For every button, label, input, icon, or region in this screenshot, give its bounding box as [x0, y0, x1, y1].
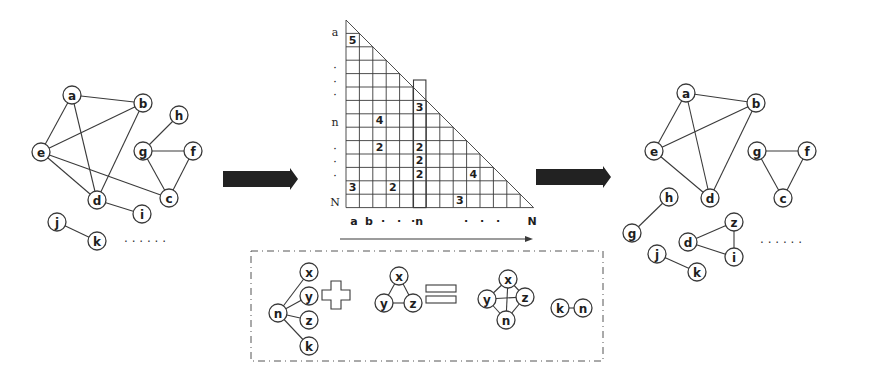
triangle-graph: xyz — [375, 267, 422, 312]
node-label: k — [93, 235, 102, 249]
node-b: b — [134, 94, 152, 112]
node-x: x — [499, 270, 517, 288]
node-z: z — [404, 294, 422, 312]
ellipsis: · · · · · · — [760, 236, 802, 250]
cell-value: 5 — [349, 34, 357, 47]
node-h: h — [660, 188, 678, 206]
edge — [654, 103, 756, 151]
node-label: h — [175, 109, 184, 123]
row-label: · — [333, 76, 337, 89]
row-label: · — [333, 170, 337, 183]
column-label: ·n — [411, 215, 423, 228]
row-label: · — [333, 143, 337, 156]
left-input-graph: abehgfdcijk· · · · · · — [32, 86, 202, 250]
node-label: k — [693, 266, 702, 280]
node-k: k — [88, 232, 106, 250]
node-label: n — [502, 314, 511, 328]
node-label: f — [804, 145, 810, 159]
node-label: c — [779, 192, 786, 206]
node-label: d — [706, 192, 715, 206]
node-d: d — [88, 191, 106, 209]
node-g: g — [623, 224, 641, 242]
node-label: x — [395, 270, 403, 284]
right-output-graph: abedgfchgzdijk· · · · · · — [623, 84, 816, 281]
node-label: e — [650, 145, 658, 159]
node-label: x — [504, 273, 512, 287]
node-label: n — [274, 307, 283, 321]
plus-icon — [322, 281, 350, 309]
node-d: d — [701, 189, 719, 207]
clique-graph: xyzn — [478, 270, 534, 329]
arrow-shape — [536, 166, 611, 188]
node-a: a — [63, 86, 81, 104]
node-label: y — [380, 297, 388, 311]
node-label: j — [654, 248, 659, 262]
cell-value: 2 — [376, 141, 384, 154]
node-label: x — [305, 266, 313, 280]
star-graph: nxyzk — [269, 263, 318, 355]
pair-graph: kn — [551, 299, 592, 317]
edge — [72, 95, 143, 103]
node-label: d — [93, 194, 102, 208]
edge — [686, 93, 756, 103]
cell-value: 2 — [389, 181, 397, 194]
column-label: · — [381, 215, 385, 228]
graph-compression-diagram: abehgfdcijk· · · · · · 53422224323a···n·… — [0, 0, 875, 389]
column-label: N — [527, 215, 536, 228]
row-label: N — [330, 196, 340, 209]
node-c: c — [774, 189, 792, 207]
node-x: x — [300, 263, 318, 281]
row-label: · — [333, 62, 337, 75]
node-j: j — [648, 245, 666, 263]
cell-value: 4 — [376, 114, 384, 127]
equals-icon-bottom — [426, 296, 456, 303]
ellipsis: · · · · · · — [124, 235, 166, 249]
node-h: h — [170, 106, 188, 124]
node-g: g — [134, 142, 152, 160]
node-label: k — [556, 302, 565, 316]
cell-value: 2 — [416, 141, 424, 154]
node-label: i — [732, 251, 736, 265]
arrow-shape — [223, 168, 298, 190]
node-label: j — [54, 216, 59, 230]
node-k: k — [300, 337, 318, 355]
merge-rule-legend-box: nxyzkxyzxyznkn — [251, 251, 603, 361]
node-label: g — [753, 145, 762, 159]
node-d: d — [679, 233, 697, 251]
node-j: j — [48, 213, 66, 231]
edge — [686, 93, 710, 198]
node-z: z — [300, 311, 318, 329]
arrowhead-icon — [525, 236, 533, 242]
cell-value: 2 — [416, 168, 424, 181]
edge — [72, 95, 97, 200]
edge — [41, 103, 143, 152]
node-k: k — [688, 263, 706, 281]
node-i: i — [133, 205, 151, 223]
column-label: a — [350, 215, 357, 228]
node-i: i — [725, 248, 743, 266]
right-arrow-icon — [536, 166, 611, 188]
column-label: · — [496, 215, 500, 228]
node-label: b — [139, 97, 148, 111]
node-label: i — [140, 208, 144, 222]
node-label: c — [165, 192, 172, 206]
node-label: g — [628, 227, 637, 241]
node-x: x — [390, 267, 408, 285]
node-c: c — [160, 189, 178, 207]
node-label: z — [410, 297, 417, 311]
node-k: k — [551, 299, 569, 317]
node-label: z — [731, 216, 738, 230]
node-b: b — [747, 94, 765, 112]
node-label: g — [139, 145, 148, 159]
edge — [41, 152, 97, 200]
node-n: n — [497, 311, 515, 329]
node-a: a — [677, 84, 695, 102]
column-label: b — [365, 215, 373, 228]
node-label: e — [37, 146, 45, 160]
node-y: y — [375, 294, 393, 312]
node-label: a — [682, 87, 690, 101]
adjacency-triangle-matrix: 53422224323a···n···Nab···n···N — [330, 20, 536, 242]
node-label: d — [684, 236, 693, 250]
row-label: a — [332, 26, 339, 39]
node-label: y — [305, 290, 313, 304]
